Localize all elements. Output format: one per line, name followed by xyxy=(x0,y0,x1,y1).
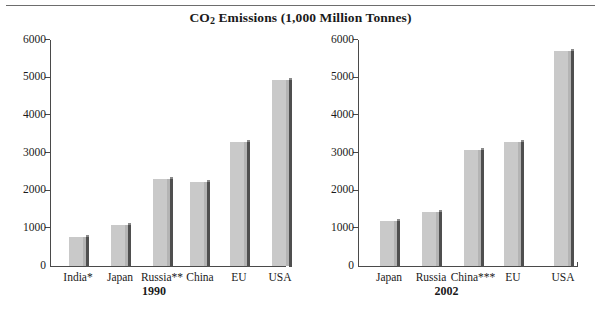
y-tick-6000-2002: 6000 xyxy=(358,39,363,40)
bar-japan-2002 xyxy=(380,221,397,266)
plot-area-1990: 6000 5000 4000 3000 2000 1000 xyxy=(50,40,286,266)
panel-year-label-1990: 1990 xyxy=(8,284,300,299)
y-tick-label: 1000 xyxy=(331,222,354,234)
y-tick-label: 2000 xyxy=(23,184,46,196)
chart-title: CO2 Emissions (1,000 Million Tonnes) xyxy=(0,10,601,26)
y-tick-label: 4000 xyxy=(331,109,354,121)
bar-usa-2002 xyxy=(554,51,571,267)
x-label-usa-2002: USA xyxy=(539,272,587,284)
bar-russia-1990 xyxy=(153,179,170,266)
y-tick-5000-2002: 5000 xyxy=(358,77,363,78)
y-tick-1000-2002: 1000 xyxy=(358,227,363,228)
bar-eu-1990 xyxy=(230,142,247,266)
y-tick-label: 0 xyxy=(348,260,354,272)
bar-russia-2002 xyxy=(422,212,439,266)
y-tick-0-2002: 0 xyxy=(358,265,363,266)
x-axis-line-2002 xyxy=(358,266,578,267)
y-tick-label: 4000 xyxy=(23,109,46,121)
y-tick-label: 6000 xyxy=(23,34,46,46)
y-tick-label: 0 xyxy=(40,260,46,272)
y-tick-3000-1990: 3000 xyxy=(50,152,55,153)
y-tick-4000-2002: 4000 xyxy=(358,114,363,115)
chart-title-suffix: Emissions (1,000 Million Tonnes) xyxy=(215,10,411,25)
y-tick-label: 3000 xyxy=(23,147,46,159)
y-tick-label: 3000 xyxy=(331,147,354,159)
chart-title-prefix: CO xyxy=(189,10,209,25)
bar-india-1990 xyxy=(69,237,86,266)
top-divider-rule xyxy=(6,5,595,6)
y-tick-3000-2002: 3000 xyxy=(358,152,363,153)
y-tick-label: 6000 xyxy=(331,34,354,46)
bar-china-1990 xyxy=(190,182,207,266)
panel-year-label-2002: 2002 xyxy=(304,284,589,299)
plot-area-2002: 6000 5000 4000 3000 2000 1000 xyxy=(358,40,578,266)
y-axis-line-2002 xyxy=(358,40,359,267)
x-axis-end-cap-2002 xyxy=(577,262,578,267)
y-tick-4000-1990: 4000 xyxy=(50,114,55,115)
x-label-eu-2002: EU xyxy=(491,272,535,284)
y-tick-label: 1000 xyxy=(23,222,46,234)
bar-china-2002 xyxy=(464,150,481,266)
bar-usa-1990 xyxy=(272,80,289,267)
y-axis-line-1990 xyxy=(50,40,51,267)
y-tick-label: 5000 xyxy=(23,71,46,83)
x-label-usa-1990: USA xyxy=(256,272,304,284)
y-tick-5000-1990: 5000 xyxy=(50,77,55,78)
chart-title-subscript: 2 xyxy=(210,15,215,26)
y-tick-6000-1990: 6000 xyxy=(50,39,55,40)
bar-japan-1990 xyxy=(111,225,128,266)
y-tick-0-1990: 0 xyxy=(50,265,55,266)
y-tick-2000-1990: 2000 xyxy=(50,190,55,191)
y-tick-1000-1990: 1000 xyxy=(50,227,55,228)
y-tick-label: 2000 xyxy=(331,184,354,196)
y-tick-2000-2002: 2000 xyxy=(358,190,363,191)
chart-figure: CO2 Emissions (1,000 Million Tonnes) 600… xyxy=(0,0,601,313)
y-tick-label: 5000 xyxy=(331,71,354,83)
bar-eu-2002 xyxy=(504,142,521,266)
